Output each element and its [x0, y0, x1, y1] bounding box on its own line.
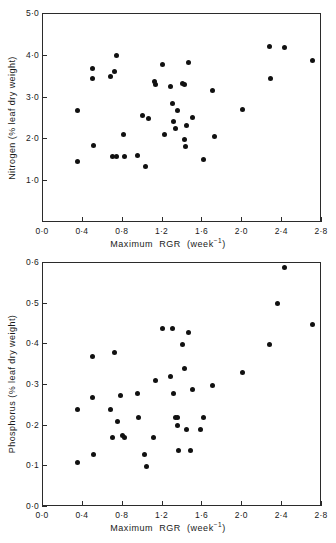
data-point: [115, 419, 120, 424]
phosphorus-y-axis-title: Phosphorus (% leaf dry weight): [7, 315, 17, 454]
data-point: [146, 116, 151, 121]
x-axis-tick: [321, 217, 322, 222]
data-point: [182, 82, 187, 87]
x-axis-tick: [82, 501, 83, 506]
y-axis-tick-label: 0·3: [26, 379, 39, 389]
x-axis-tick-label: 2·0: [235, 226, 248, 236]
data-point: [108, 74, 113, 79]
x-axis-tick-label: 0·8: [115, 510, 128, 520]
data-point: [210, 88, 215, 93]
data-point: [184, 427, 189, 432]
data-point: [136, 415, 141, 420]
data-point: [122, 154, 127, 159]
y-axis-tick: [42, 425, 47, 426]
data-point: [112, 69, 117, 74]
x-axis-tick-label: 2·4: [275, 510, 288, 520]
x-axis-tick: [281, 217, 282, 222]
data-point: [114, 53, 119, 58]
x-axis-tick-label: 0·0: [36, 510, 49, 520]
x-axis-tick: [42, 501, 43, 506]
data-point: [275, 301, 280, 306]
data-point: [171, 119, 176, 124]
data-point: [180, 342, 185, 347]
x-axis-tick-label: 0·4: [75, 226, 88, 236]
data-point: [160, 62, 165, 67]
y-axis-tick-label: 4·0: [26, 50, 39, 60]
y-axis-tick: [42, 303, 47, 304]
y-axis-tick: [42, 13, 47, 14]
data-point: [135, 391, 140, 396]
data-point: [90, 76, 95, 81]
y-axis-tick-label: 0·6: [26, 257, 39, 267]
x-axis-tick-label: 0·4: [75, 510, 88, 520]
data-point: [212, 134, 217, 139]
y-axis-tick-label: 3·0: [26, 92, 39, 102]
x-axis-tick-label: 2·0: [235, 510, 248, 520]
nitrogen-x-axis-title: Maximum RGR (week−1): [0, 239, 336, 249]
data-point: [198, 427, 203, 432]
data-point: [186, 60, 191, 65]
data-point: [160, 326, 165, 331]
y-axis-tick: [42, 180, 47, 181]
x-axis-tick-label: 1·6: [195, 226, 208, 236]
data-point: [90, 66, 95, 71]
data-point: [268, 76, 273, 81]
data-point: [267, 44, 272, 49]
data-point: [310, 322, 315, 327]
x-axis-tick: [162, 501, 163, 506]
data-point: [182, 137, 187, 142]
x-axis-tick: [281, 501, 282, 506]
x-axis-tick-label: 2·8: [315, 226, 328, 236]
x-axis-tick: [241, 501, 242, 506]
nitrogen-data-points: [43, 14, 320, 221]
data-point: [153, 378, 158, 383]
y-axis-tick-label: 5·0: [26, 8, 39, 18]
x-axis-tick-label: 1·2: [155, 226, 168, 236]
y-axis-tick-label: 1·0: [26, 175, 39, 185]
phosphorus-data-points: [43, 263, 320, 505]
phosphorus-x-axis-title: Maximum RGR (week−1): [0, 523, 336, 533]
data-point: [168, 374, 173, 379]
y-axis-tick: [42, 97, 47, 98]
data-point: [168, 84, 173, 89]
phosphorus-panel: 0·00·10·20·30·40·50·6 0·00·40·81·21·62·0…: [0, 255, 336, 543]
data-point: [90, 354, 95, 359]
y-axis-tick: [42, 465, 47, 466]
data-point: [182, 366, 187, 371]
data-point: [310, 58, 315, 63]
data-point: [91, 143, 96, 148]
y-axis-tick-label: 0·5: [26, 298, 39, 308]
data-point: [240, 107, 245, 112]
data-point: [151, 435, 156, 440]
data-point: [75, 108, 80, 113]
x-axis-tick-label: 1·6: [195, 510, 208, 520]
data-point: [135, 153, 140, 158]
data-point: [186, 330, 191, 335]
data-point: [188, 448, 193, 453]
x-axis-tick: [241, 217, 242, 222]
data-point: [118, 393, 123, 398]
data-point: [175, 108, 180, 113]
y-axis-tick: [42, 384, 47, 385]
data-point: [110, 435, 115, 440]
y-axis-tick-label: 2·0: [26, 133, 39, 143]
nitrogen-panel: 1·02·03·04·05·0 0·00·40·81·21·62·02·42·8…: [0, 0, 336, 255]
data-point: [175, 423, 180, 428]
y-axis-tick: [42, 506, 47, 507]
data-point: [170, 326, 175, 331]
data-point: [121, 132, 126, 137]
x-axis-tick: [42, 217, 43, 222]
data-point: [183, 144, 188, 149]
y-axis-tick-label: 0·2: [26, 420, 39, 430]
y-axis-tick: [42, 262, 47, 263]
data-point: [201, 415, 206, 420]
data-point: [140, 113, 145, 118]
data-point: [75, 460, 80, 465]
data-point: [112, 350, 117, 355]
data-point: [173, 126, 178, 131]
figure-two-scatter-plots: 1·02·03·04·05·0 0·00·40·81·21·62·02·42·8…: [0, 0, 336, 543]
data-point: [240, 370, 245, 375]
data-point: [171, 391, 176, 396]
data-point: [170, 101, 175, 106]
x-axis-tick-label: 2·4: [275, 226, 288, 236]
